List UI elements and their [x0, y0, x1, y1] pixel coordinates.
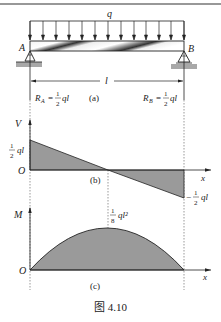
svg-text:A: A: [40, 98, 45, 104]
svg-text:1: 1: [164, 90, 168, 98]
svg-text:ql: ql: [201, 192, 209, 202]
svg-text:2: 2: [10, 152, 14, 160]
shear-negative-area: [108, 170, 184, 198]
svg-text:1: 1: [56, 90, 60, 98]
beam-diagram: q A B l: [0, 0, 221, 322]
moment-parabola-area: [30, 228, 184, 270]
reaction-right: R B = 1 2 ql: [142, 90, 178, 108]
shear-axis-label: V: [15, 118, 23, 129]
shear-x-label: x: [200, 173, 205, 183]
panel-b-label: (b): [90, 175, 101, 185]
svg-text:B: B: [149, 98, 153, 104]
panel-a-label: (a): [89, 93, 99, 103]
moment-origin: O: [19, 265, 26, 276]
svg-text:=: =: [48, 93, 53, 103]
svg-text:R: R: [34, 93, 41, 103]
svg-text:ql: ql: [62, 93, 70, 103]
span-label: l: [105, 75, 108, 86]
distributed-load: q: [29, 8, 186, 40]
panel-a: q A B l: [16, 8, 197, 108]
panel-c-moment-diagram: M x O 1 8 ql² (c): [13, 207, 211, 291]
load-arrows: [29, 21, 186, 40]
span-dimension: l: [31, 75, 183, 86]
panel-b-shear-diagram: V x O 1 2 ql (b) − 1 2 ql: [9, 118, 211, 207]
svg-text:8: 8: [111, 217, 115, 225]
svg-text:−: −: [186, 192, 191, 202]
panel-c-label: (c): [90, 281, 100, 291]
svg-text:ql: ql: [170, 93, 178, 103]
svg-text:ql: ql: [17, 145, 25, 155]
svg-text:1: 1: [10, 142, 14, 150]
svg-text:1: 1: [194, 189, 198, 197]
beam: [30, 41, 184, 51]
svg-text:R: R: [142, 93, 149, 103]
moment-max-label: 1 8 ql²: [110, 207, 128, 225]
shear-positive-area: [30, 140, 108, 170]
svg-text:ql²: ql²: [118, 210, 128, 220]
svg-text:2: 2: [194, 199, 198, 207]
moment-axis-label: M: [13, 209, 23, 220]
support-label-a: A: [18, 42, 26, 53]
svg-text:2: 2: [56, 100, 60, 108]
load-label: q: [107, 8, 112, 19]
shear-min-label: − 1 2 ql: [186, 189, 209, 207]
figure-caption: 图 4.10: [94, 301, 128, 313]
moment-x-label: x: [202, 272, 207, 282]
svg-text:2: 2: [164, 100, 168, 108]
support-label-b: B: [188, 43, 194, 54]
reaction-left: R A = 1 2 ql: [34, 90, 70, 108]
shear-max-label: 1 2 ql: [9, 142, 25, 160]
pin-support-left: [16, 51, 42, 67]
svg-text:1: 1: [111, 207, 115, 215]
shear-origin: O: [18, 165, 25, 176]
svg-text:=: =: [156, 93, 161, 103]
